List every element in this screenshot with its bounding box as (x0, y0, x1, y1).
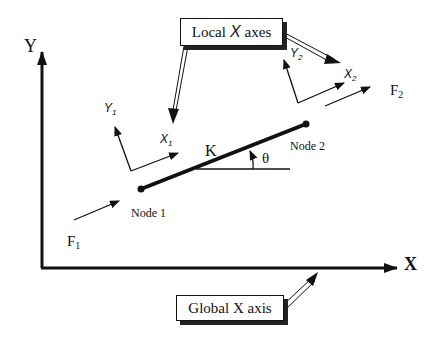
local-axes-node-2 (284, 60, 344, 103)
node-1-label: Node 1 (131, 206, 166, 220)
force-f2-label: F2 (390, 82, 403, 100)
local-callout-x: X (230, 23, 241, 41)
force-f1-label: F1 (67, 233, 80, 251)
local-callout-pointer-1 (168, 46, 188, 124)
global-x-label: X (404, 254, 417, 274)
global-callout-text: Global X axis (188, 300, 271, 317)
local-axes-node-1 (115, 127, 178, 171)
local-callout-prefix: Local (192, 24, 226, 41)
global-y-label: Y (24, 36, 37, 56)
local-x1-label: X1 (159, 132, 172, 148)
angle-label: θ (262, 150, 269, 166)
local-callout-suffix: axes (245, 24, 272, 41)
local-axes-callout: Local X axes (180, 18, 283, 46)
force-f2-arrow (325, 87, 370, 106)
force-f1-arrow (74, 201, 119, 220)
local-y1-label: Y1 (104, 101, 116, 117)
node-1-dot (138, 186, 145, 193)
node-2-dot (303, 121, 310, 128)
global-axis-callout: Global X axis (176, 295, 284, 321)
global-callout-pointer (283, 272, 318, 309)
local-y2-label: Y2 (290, 46, 303, 62)
node-2-label: Node 2 (290, 139, 325, 153)
stiffness-label: K (205, 142, 217, 159)
local-x2-label: X2 (343, 67, 357, 83)
